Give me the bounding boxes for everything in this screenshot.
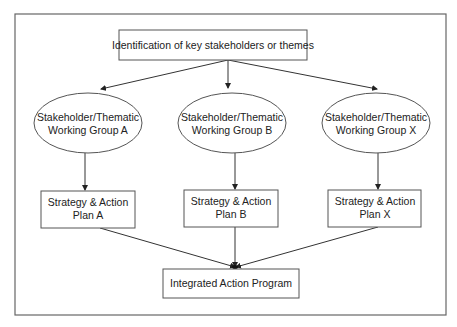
edge-plan-x-to-integrated (236, 227, 378, 267)
node-plan-x: Strategy & Action Plan X (328, 190, 421, 227)
node-integrated-action-program: Integrated Action Program (163, 269, 299, 298)
node-working-group-b: Stakeholder/Thematic Working Group B (178, 93, 286, 153)
node-working-group-b-line1: Stakeholder/Thematic (181, 111, 283, 123)
node-working-group-x-line2: Working Group X (336, 124, 416, 136)
node-plan-x-line1: Strategy & Action (335, 195, 416, 207)
edge-plan-a-to-integrated (100, 228, 235, 267)
node-working-group-x-ellipse (322, 93, 430, 153)
node-plan-x-line2: Plan X (360, 208, 391, 220)
node-working-group-b-line2: Working Group B (192, 124, 272, 136)
edge-identify-to-wg-x (228, 60, 377, 89)
node-working-group-b-ellipse (178, 93, 286, 153)
node-working-group-a: Stakeholder/Thematic Working Group A (34, 93, 142, 153)
edges (85, 60, 378, 269)
node-working-group-a-line2: Working Group A (48, 124, 128, 136)
node-plan-b-line1: Strategy & Action (191, 195, 272, 207)
node-plan-a-line1: Strategy & Action (48, 196, 129, 208)
node-identification-label: Identification of key stakeholders or th… (112, 39, 314, 51)
node-plan-a: Strategy & Action Plan A (41, 191, 135, 228)
flowchart-canvas: Identification of key stakeholders or th… (0, 0, 457, 327)
node-working-group-x-line1: Stakeholder/Thematic (325, 111, 427, 123)
node-plan-b-line2: Plan B (216, 208, 247, 220)
node-working-group-a-line1: Stakeholder/Thematic (37, 111, 139, 123)
node-plan-b: Strategy & Action Plan B (184, 190, 278, 227)
node-plan-a-line2: Plan A (73, 209, 103, 221)
node-working-group-x: Stakeholder/Thematic Working Group X (322, 93, 430, 153)
merge-point (232, 265, 238, 269)
node-identification: Identification of key stakeholders or th… (112, 30, 314, 60)
node-working-group-a-ellipse (34, 93, 142, 153)
node-integrated-label: Integrated Action Program (170, 277, 292, 289)
edge-identify-to-wg-a (101, 60, 228, 89)
